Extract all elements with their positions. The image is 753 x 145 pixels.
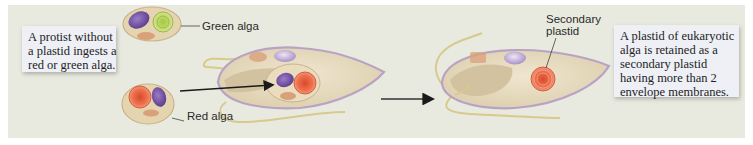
callout-line: red or green alga. (28, 58, 110, 72)
protist-engulfing-alga (218, 47, 384, 108)
callout-protist-ingests-alga: A protist without a plastid ingests a re… (22, 26, 116, 72)
callout-line: A plastid of eukaryotic (620, 29, 733, 43)
label-secondary-plastid-2: plastid (546, 25, 579, 38)
callout-line: a plastid ingests a (28, 44, 110, 58)
red-alga-cell (122, 84, 184, 124)
callout-line: alga is retained as a (620, 43, 733, 57)
callout-line: secondary plastid (620, 57, 733, 71)
label-green-alga: Green alga (202, 20, 259, 33)
callout-line: envelope membranes. (620, 85, 733, 99)
protist-with-secondary-plastid (442, 38, 609, 108)
callout-plastid-retained: A plastid of eukaryotic alga is retained… (614, 25, 739, 97)
label-red-alga: Red alga (187, 110, 233, 123)
callout-line: having more than 2 (620, 71, 733, 85)
green-alga-cell (123, 7, 200, 41)
callout-line: A protist without (28, 30, 110, 44)
